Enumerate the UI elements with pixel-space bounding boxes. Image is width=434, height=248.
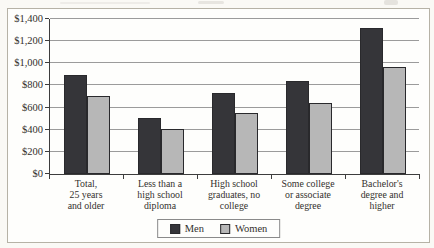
y-axis-tick-label: $1,200 xyxy=(1,35,43,46)
category-label: Total, 25 years and older xyxy=(44,178,128,211)
y-axis-tick-label: $400 xyxy=(1,124,43,135)
y-axis-tick-label: $1,000 xyxy=(1,57,43,68)
bar-men xyxy=(138,118,161,174)
x-axis-category-labels: Total, 25 years and olderLess than a hig… xyxy=(49,178,419,216)
legend-swatch-icon xyxy=(220,224,230,234)
category-label: High school graduates, no college xyxy=(192,178,276,211)
bar-women xyxy=(161,129,184,174)
bar-women xyxy=(235,113,258,174)
category-label: Bachelor's degree and higher xyxy=(340,178,424,211)
bar-women xyxy=(383,67,406,174)
bar-group xyxy=(123,19,197,174)
y-axis-tick-label: $800 xyxy=(1,79,43,90)
chart-frame: $0$200$400$600$800$1,000$1,200$1,400 Tot… xyxy=(7,8,430,243)
cropped-text-artifact xyxy=(198,1,224,4)
legend-label: Men xyxy=(185,223,204,234)
y-axis-tick-label: $1,400 xyxy=(1,13,43,24)
y-axis-tick-label: $200 xyxy=(1,146,43,157)
legend-swatch-icon xyxy=(170,224,180,234)
cropped-text-artifact xyxy=(60,2,150,4)
bar-men xyxy=(286,81,309,174)
bar-men xyxy=(212,93,235,174)
category-label: Less than a high school diploma xyxy=(118,178,202,211)
bar-women xyxy=(87,96,110,174)
bar-men xyxy=(64,75,87,174)
legend: MenWomen xyxy=(157,219,281,238)
chart-canvas: $0$200$400$600$800$1,000$1,200$1,400 Tot… xyxy=(0,0,434,248)
cropped-text-artifact xyxy=(384,0,398,5)
bar-women xyxy=(309,103,332,174)
legend-item-women: Women xyxy=(220,223,267,234)
bar-group xyxy=(197,19,271,174)
bar-group xyxy=(345,19,419,174)
bar-group xyxy=(49,19,123,174)
legend-label: Women xyxy=(235,223,267,234)
plot-area xyxy=(49,19,419,174)
bar-group xyxy=(271,19,345,174)
y-axis-tick-label: $0 xyxy=(1,168,43,179)
category-label: Some college or associate degree xyxy=(266,178,350,211)
x-axis-line xyxy=(49,174,420,175)
y-axis-tick-label: $600 xyxy=(1,102,43,113)
legend-item-men: Men xyxy=(170,223,204,234)
bar-men xyxy=(360,28,383,174)
y-axis-labels: $0$200$400$600$800$1,000$1,200$1,400 xyxy=(1,19,43,174)
